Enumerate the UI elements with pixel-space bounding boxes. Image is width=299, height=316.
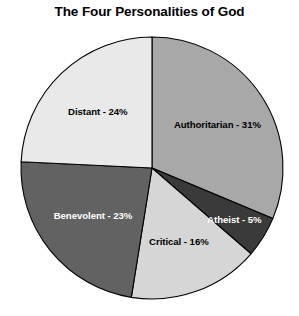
- pie-slice-distant: [21, 37, 152, 168]
- pie-slice-label-benevolent: Benevolent - 23%: [54, 210, 133, 221]
- pie-slice-label-critical: Critical - 16%: [149, 236, 209, 247]
- pie-slice-label-distant: Distant - 24%: [68, 106, 128, 117]
- pie-slice-label-atheist: Atheist - 5%: [207, 214, 262, 225]
- pie-chart-figure: The Four Personalities of God Authoritar…: [0, 0, 299, 316]
- pie-slice-group: [21, 37, 283, 299]
- pie-slice-benevolent: [21, 162, 152, 298]
- pie-slice-label-authoritarian: Authoritarian - 31%: [174, 119, 262, 130]
- pie-chart-svg: Authoritarian - 31%Atheist - 5%Critical …: [0, 0, 299, 316]
